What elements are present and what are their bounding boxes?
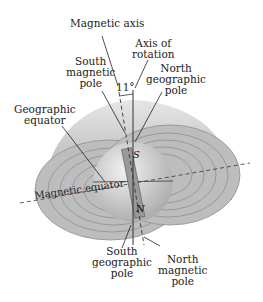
label-south-geographic-pole: South geographic pole xyxy=(92,246,152,279)
label-angle: 11° xyxy=(116,82,135,93)
svg-text:S: S xyxy=(133,149,140,160)
label-north-magnetic-pole: North magnetic pole xyxy=(158,254,207,287)
label-south-magnetic-pole: South magnetic pole xyxy=(66,56,115,89)
label-geographic-equator: Geographic equator xyxy=(14,104,76,126)
label-north-geographic-pole: North geographic pole xyxy=(146,63,206,96)
svg-text:N: N xyxy=(135,203,146,214)
label-magnetic-axis: Magnetic axis xyxy=(70,18,144,29)
label-axis-of-rotation: Axis of rotation xyxy=(132,38,174,60)
